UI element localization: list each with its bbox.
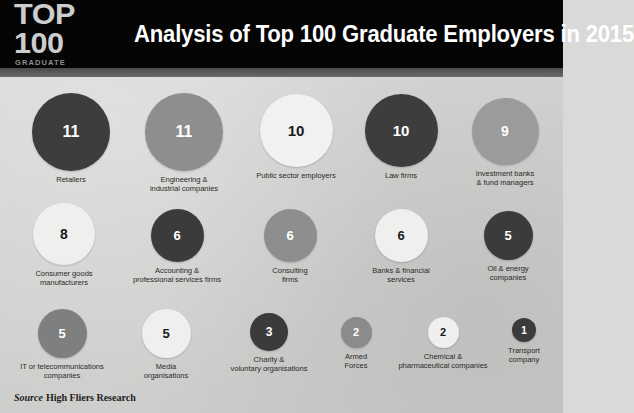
page-title: Analysis of Top 100 Graduate Employers i… bbox=[134, 21, 634, 48]
bubble-circle: 6 bbox=[375, 209, 428, 262]
bubble-label-line2: industrial companies bbox=[118, 184, 250, 193]
bubble-circle: 5 bbox=[142, 309, 191, 358]
source-label: Source bbox=[14, 392, 43, 403]
bubble-value: 10 bbox=[288, 122, 305, 139]
bubble-value: 5 bbox=[58, 326, 65, 341]
source-value: High Fliers Research bbox=[46, 392, 136, 403]
bubble-label: Investment banks& fund managers bbox=[439, 169, 571, 188]
bubble-value: 5 bbox=[504, 228, 511, 243]
bubble-circle: 5 bbox=[484, 211, 533, 260]
bubble-value: 1 bbox=[521, 325, 527, 336]
bubble-value: 8 bbox=[60, 226, 68, 242]
logo-top100-text: TOP 100 bbox=[10, 0, 120, 57]
source-note: SourceHigh Fliers Research bbox=[14, 392, 136, 403]
header-divider bbox=[0, 68, 563, 77]
bubble-circle: 10 bbox=[365, 94, 438, 167]
bubble-circle: 9 bbox=[472, 98, 539, 165]
sunday-times-top100-logo: THE TIMES TOP 100 GRADUATE EMPLOYERS bbox=[10, 0, 118, 76]
bubble-label-line2: & fund managers bbox=[439, 178, 571, 187]
bubble-item: 9Investment banks& fund managers bbox=[440, 98, 570, 188]
bubble-item: 11Retailers bbox=[6, 93, 136, 184]
header-band: THE TIMES TOP 100 GRADUATE EMPLOYERS Ana… bbox=[0, 0, 563, 68]
bubble-value: 5 bbox=[162, 326, 169, 341]
bubble-item: 5Oil & energycompanies bbox=[443, 211, 573, 283]
bubble-label: Oil & energycompanies bbox=[442, 264, 574, 283]
bubble-label: Transportcompany bbox=[458, 346, 590, 365]
bubble-value: 6 bbox=[397, 228, 404, 243]
bubble-value: 6 bbox=[173, 228, 180, 243]
bubble-label-line1: Transport bbox=[458, 346, 590, 355]
bubble-circle: 10 bbox=[260, 94, 333, 167]
bubble-circle: 11 bbox=[145, 93, 223, 171]
bubble-value: 11 bbox=[176, 123, 193, 141]
bubble-value: 3 bbox=[266, 325, 273, 339]
bubble-circle: 8 bbox=[33, 203, 95, 265]
bubble-item: 6Accounting &professional services firms bbox=[112, 209, 242, 285]
bubble-item: 1Transportcompany bbox=[459, 318, 589, 365]
bubble-value: 9 bbox=[501, 123, 509, 139]
bubble-circle: 3 bbox=[250, 313, 288, 351]
bubble-value: 10 bbox=[393, 122, 410, 139]
bubble-value: 2 bbox=[440, 326, 446, 338]
bubble-circle: 5 bbox=[38, 309, 87, 358]
bubble-value: 6 bbox=[286, 228, 293, 243]
bubble-circle: 6 bbox=[151, 209, 204, 262]
bubble-label-line2: companies bbox=[442, 273, 574, 282]
bubble-label-line2: company bbox=[458, 355, 590, 364]
bubble-item: 8Consumer goodsmanufacturers bbox=[0, 203, 129, 288]
bubble-circle: 1 bbox=[512, 318, 536, 342]
bubble-circle: 2 bbox=[341, 317, 372, 348]
bubble-value: 2 bbox=[353, 326, 359, 338]
bubble-label-line1: Investment banks bbox=[439, 169, 571, 178]
bubble-circle: 11 bbox=[32, 93, 110, 171]
bubble-value: 11 bbox=[63, 123, 80, 141]
bubble-circle: 2 bbox=[428, 317, 459, 348]
bubble-label-line1: Oil & energy bbox=[442, 264, 574, 273]
bubble-circle: 6 bbox=[264, 209, 317, 262]
